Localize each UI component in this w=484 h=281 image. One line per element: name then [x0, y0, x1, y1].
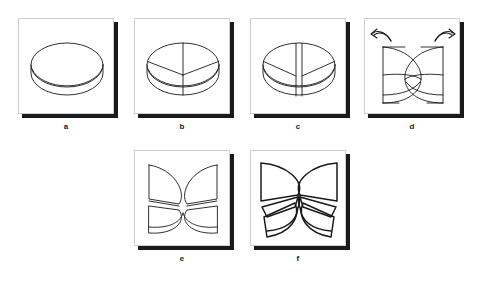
disc-rim-arc — [32, 69, 102, 86]
panel-e — [134, 150, 230, 246]
caption-b: b — [132, 122, 232, 131]
panel-frame — [134, 18, 230, 114]
rotation-arrow-right-shaft-2 — [435, 33, 452, 41]
caption-c: c — [248, 122, 348, 131]
panel-frame — [250, 18, 346, 114]
wedge-lower-right — [185, 206, 217, 233]
disc-top-face — [31, 43, 103, 87]
disc-top-face — [263, 43, 335, 87]
panel-a — [18, 18, 114, 114]
panel-b — [134, 18, 230, 114]
wing-upper-right — [298, 163, 337, 201]
wing-lower-left-rim — [267, 207, 298, 231]
panel-frame — [364, 18, 460, 114]
diagram-butterfly-final — [251, 151, 346, 246]
score-line-left — [264, 62, 296, 77]
wedge-upper-left — [149, 165, 181, 204]
figure-disc-sectioning: a b — [0, 0, 484, 281]
wedge-upper-right — [185, 165, 217, 204]
panel-frame — [18, 18, 114, 114]
diagram-four-pieces — [135, 151, 230, 246]
score-line-right — [302, 62, 334, 77]
diagram-scored-disc — [135, 19, 230, 114]
disc-rim-arc — [264, 69, 334, 86]
rotation-arrow-left-shaft-2 — [374, 33, 391, 41]
left-half-bottom-arc — [383, 79, 421, 103]
diagram-halves-opening — [365, 19, 460, 114]
wing-upper-left — [261, 163, 300, 201]
wedge-lower-left — [149, 206, 181, 233]
caption-f: f — [248, 254, 348, 263]
pivot-line-right — [299, 195, 300, 207]
panel-f — [250, 150, 346, 246]
panel-c — [250, 18, 346, 114]
score-line-left — [148, 62, 183, 76]
panel-d — [364, 18, 460, 114]
right-half-bottom-arc — [405, 79, 443, 103]
caption-a: a — [16, 122, 116, 131]
score-line-right — [183, 62, 218, 76]
diagram-cut-disc — [251, 19, 346, 114]
caption-d: d — [362, 122, 462, 131]
wing-lower-right-rim — [300, 207, 331, 231]
panel-frame — [134, 150, 230, 246]
diagram-whole-disc — [19, 19, 114, 114]
caption-e: e — [132, 254, 232, 263]
panel-frame — [250, 150, 346, 246]
